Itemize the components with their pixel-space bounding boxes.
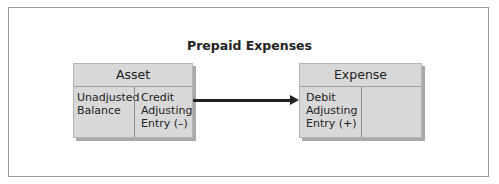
expense-right-column	[362, 87, 423, 137]
asset-header: Asset	[74, 64, 192, 87]
asset-left-line: Balance	[77, 104, 131, 117]
arrow-line	[193, 99, 293, 102]
expense-header: Expense	[300, 64, 421, 87]
asset-t-account: Asset Unadjusted Balance Credit Adjustin…	[73, 63, 193, 138]
asset-right-line: Credit	[141, 91, 191, 104]
asset-right-line: Adjusting	[141, 104, 191, 117]
expense-left-line: Entry (+)	[306, 117, 358, 130]
diagram-title: Prepaid Expenses	[0, 38, 499, 53]
asset-right-column: Credit Adjusting Entry (–)	[135, 87, 194, 137]
asset-right-line: Entry (–)	[141, 117, 191, 130]
asset-left-line: Unadjusted	[77, 91, 131, 104]
expense-left-column: Debit Adjusting Entry (+)	[300, 87, 361, 137]
asset-left-column: Unadjusted Balance	[74, 87, 134, 137]
expense-left-line: Adjusting	[306, 104, 358, 117]
expense-left-line: Debit	[306, 91, 358, 104]
arrowhead-icon	[290, 95, 299, 105]
expense-t-account: Expense Debit Adjusting Entry (+)	[299, 63, 422, 138]
